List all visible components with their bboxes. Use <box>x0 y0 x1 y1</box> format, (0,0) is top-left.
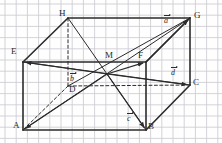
vector-letter-a: a <box>164 17 170 25</box>
vector-letter-c: c <box>127 115 133 123</box>
vertex-label-F: F <box>138 51 143 60</box>
vertex-label-C: C <box>193 78 199 87</box>
vector-label-c: c <box>127 113 133 123</box>
vector-arrow-bar-c <box>127 113 133 114</box>
vertex-label-G: G <box>194 11 201 20</box>
vector-arrow-bar-b <box>70 73 76 74</box>
edge-D-C <box>68 85 190 86</box>
vertex-label-H: H <box>59 9 66 18</box>
vector-arrow-bar-d <box>171 67 177 68</box>
vertex-label-E: E <box>11 47 17 56</box>
vector-label-a: a <box>164 15 170 25</box>
vertex-label-A: A <box>13 121 20 130</box>
vertex-label-D: D <box>69 85 76 94</box>
vector-M-F <box>107 63 143 74</box>
vector-letter-d: d <box>171 69 177 77</box>
vector-letter-b: b <box>70 75 76 83</box>
vertex-label-M: M <box>105 51 113 60</box>
vector-arrow-bar-a <box>164 15 170 16</box>
vector-label-b: b <box>70 73 76 83</box>
vector-label-d: d <box>171 67 177 77</box>
cuboid-diagram-svg <box>0 0 222 143</box>
geometry-figure-canvas: A B C D E F G H M a b c d <box>0 0 222 143</box>
vertex-label-B: B <box>148 122 154 131</box>
